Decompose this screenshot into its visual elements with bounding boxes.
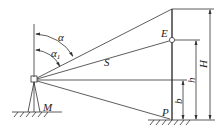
sight-line-P — [37, 81, 170, 119]
label-h: h — [185, 77, 197, 83]
label-H: H — [197, 59, 209, 69]
label-alpha: α — [58, 31, 64, 43]
target-E-icon — [169, 37, 174, 42]
label-S: S — [104, 56, 110, 68]
label-M: M — [42, 101, 53, 113]
tripod-leg — [34, 82, 40, 112]
tripod-leg — [28, 82, 34, 112]
label-P: P — [161, 106, 169, 118]
label-E: E — [160, 27, 168, 39]
arrowheads — [35, 9, 212, 120]
trig-leveling-diagram: α α1 S E P M H h b — [0, 0, 221, 136]
ground-hatch-right — [150, 120, 190, 125]
label-alpha1: α1 — [51, 47, 60, 61]
label-b: b — [172, 98, 184, 104]
